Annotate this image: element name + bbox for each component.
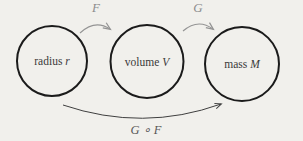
arrow-g-label: G <box>193 0 203 15</box>
arrow-g <box>183 24 213 31</box>
node-volume-label: volume V <box>125 56 171 68</box>
node-radius-label: radius r <box>34 55 70 67</box>
arrow-f-label: F <box>91 0 101 15</box>
node-radius-word: radius <box>34 55 65 67</box>
arrow-g-of-f-label: G ∘ F <box>131 123 162 137</box>
function-composition-diagram: radius r volume V mass M F G G ∘ F <box>0 0 303 141</box>
arrow-f <box>80 25 110 33</box>
arrow-g-of-f <box>63 104 221 118</box>
node-mass-word: mass <box>224 58 250 70</box>
node-volume-word: volume <box>125 56 162 68</box>
node-mass-label: mass M <box>224 58 261 70</box>
node-volume-variable: V <box>162 56 171 68</box>
node-radius-variable: r <box>65 55 70 67</box>
node-mass-variable: M <box>249 58 261 70</box>
